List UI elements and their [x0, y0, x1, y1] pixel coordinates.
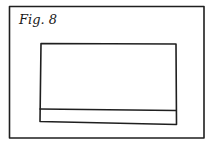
figure-label: Fig. 8 — [18, 12, 57, 27]
figure-canvas: Fig. 8 — [0, 0, 211, 146]
